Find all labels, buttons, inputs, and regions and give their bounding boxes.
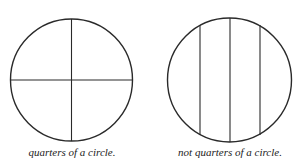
not-quarters-figure	[168, 18, 292, 142]
caption-not-quarters: not quarters of a circle.	[166, 146, 294, 158]
quarters-figure	[11, 19, 133, 141]
diagram-canvas	[0, 0, 294, 160]
caption-quarters: quarters of a circle.	[11, 146, 133, 158]
